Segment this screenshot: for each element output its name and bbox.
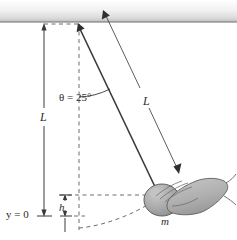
mass-label: m	[161, 216, 169, 227]
string-length-leader	[102, 10, 182, 174]
height-label: h	[59, 202, 65, 213]
diagram-canvas	[0, 0, 237, 240]
datum-label: y = 0	[6, 209, 29, 220]
pendulum-string	[77, 23, 162, 196]
height-dimension	[63, 194, 67, 232]
angle-label: θ = 25°	[59, 92, 91, 103]
ceiling-beam	[0, 0, 237, 22]
vertical-length-label: L	[40, 111, 47, 123]
string-length-label: L	[143, 95, 150, 107]
pendulum-diagram: θ = 25° L L y = 0 h m	[0, 0, 237, 240]
swing-path-arc	[79, 202, 152, 228]
